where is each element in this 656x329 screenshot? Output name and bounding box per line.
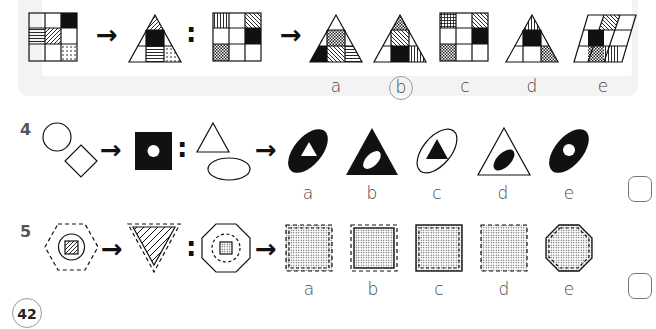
q5-target-octagon [201, 223, 251, 273]
q3-arrow-1: → [96, 20, 118, 50]
q3-option-d-label[interactable]: d [520, 76, 544, 96]
q3-option-d-figure[interactable] [506, 15, 558, 62]
q3-option-a-figure[interactable] [310, 15, 362, 62]
q4-source-circle-diamond [42, 122, 98, 180]
q5-arrow-1: → [101, 234, 123, 264]
q5-option-b-figure[interactable] [350, 224, 398, 272]
q4-option-c-label[interactable]: c [425, 183, 449, 203]
q5-option-e-figure[interactable] [545, 224, 593, 272]
q3-option-a-label[interactable]: a [324, 76, 348, 96]
q5-option-a-figure[interactable] [285, 224, 333, 272]
q4-option-e-label[interactable]: e [557, 183, 581, 203]
q3-option-e-figure[interactable] [574, 15, 636, 62]
q5-option-e-label[interactable]: e [557, 279, 581, 299]
q5-option-d-figure[interactable] [480, 224, 528, 272]
q3-source-grid [29, 13, 77, 61]
q4-option-e-figure[interactable] [545, 126, 593, 176]
q3-option-c-label[interactable]: c [453, 76, 477, 96]
q5-arrow-2: → [255, 234, 277, 264]
q4-option-b-figure[interactable] [346, 128, 398, 176]
q4-option-b-label[interactable]: b [360, 183, 384, 203]
q3-option-c-figure[interactable] [440, 13, 488, 61]
q5-colon: : [186, 232, 196, 262]
question-5-number: 5 [20, 222, 31, 241]
q4-option-a-figure[interactable] [284, 126, 332, 176]
q5-option-b-label[interactable]: b [361, 279, 385, 299]
q3-target-grid [213, 13, 261, 61]
q4-option-c-figure[interactable] [413, 126, 461, 176]
q5-option-d-label[interactable]: d [492, 279, 516, 299]
q4-source-square [135, 132, 172, 170]
q4-option-d-label[interactable]: d [491, 183, 515, 203]
q4-arrow-2: → [255, 135, 277, 165]
q4-option-a-label[interactable]: a [296, 183, 320, 203]
q3-option-b-label-selected[interactable]: b [389, 76, 413, 100]
q5-source-inverted-triangle [127, 223, 181, 273]
q4-target-triangle-ellipse [197, 123, 253, 181]
page-number: 42 [12, 298, 42, 328]
q4-answer-box[interactable] [628, 176, 652, 202]
q4-option-d-figure[interactable] [478, 128, 530, 176]
q4-colon: : [177, 133, 187, 163]
q5-answer-box[interactable] [628, 273, 652, 299]
q3-colon: : [186, 18, 196, 48]
q5-option-c-label[interactable]: c [427, 279, 451, 299]
q3-arrow-2: → [280, 20, 302, 50]
q5-option-a-label[interactable]: a [297, 279, 321, 299]
q5-option-c-figure[interactable] [415, 224, 463, 272]
q5-source-hexagon [44, 223, 99, 271]
q3-option-b-figure[interactable] [374, 15, 426, 62]
q4-arrow-1: → [100, 135, 122, 165]
q3-source-triangle [129, 15, 181, 62]
question-4-number: 4 [20, 120, 31, 139]
q3-option-e-label[interactable]: e [591, 76, 615, 96]
